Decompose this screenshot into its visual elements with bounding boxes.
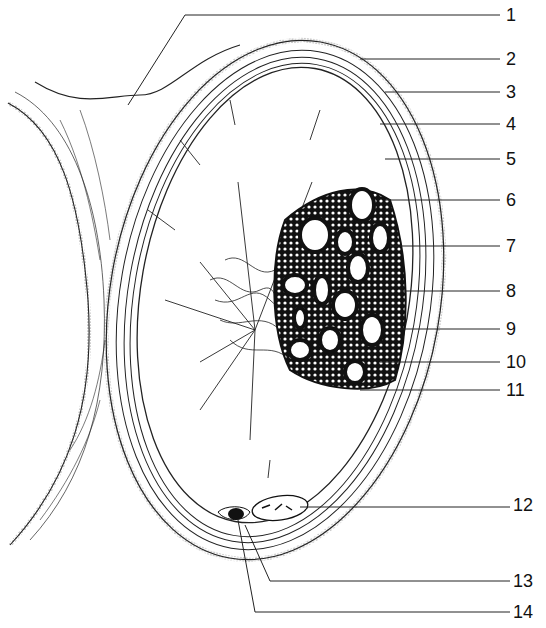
lobules [274, 189, 405, 389]
cross-section-drawing [0, 0, 546, 628]
label-3: 3 [506, 83, 516, 101]
label-5: 5 [506, 150, 516, 168]
label-10: 10 [506, 353, 526, 371]
label-14: 14 [513, 603, 533, 621]
label-7: 7 [506, 237, 516, 255]
label-4: 4 [506, 115, 516, 133]
septum-tissue [8, 45, 240, 545]
label-12: 12 [513, 496, 533, 514]
label-6: 6 [506, 191, 516, 209]
label-11: 11 [506, 381, 525, 399]
label-13: 13 [513, 572, 533, 590]
label-2: 2 [506, 50, 516, 68]
label-9: 9 [506, 320, 516, 338]
label-8: 8 [506, 282, 516, 300]
vessels [218, 492, 309, 524]
label-1: 1 [506, 6, 516, 24]
